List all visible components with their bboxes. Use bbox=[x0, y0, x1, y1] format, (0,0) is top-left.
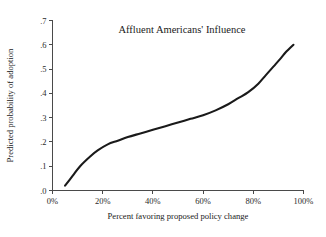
x-tick-label: 40% bbox=[145, 196, 161, 206]
y-axis-ticks bbox=[49, 21, 53, 191]
x-axis-title: Percent favoring proposed policy change bbox=[108, 211, 249, 221]
x-tick-label: 80% bbox=[246, 196, 262, 206]
x-tick-label: 20% bbox=[95, 196, 111, 206]
chart-canvas: .0.1.2.3.4.5.6.7 0%20%40%60%80%100% Affl… bbox=[0, 0, 326, 237]
data-series-line bbox=[65, 45, 293, 186]
y-tick-label: .1 bbox=[40, 161, 46, 171]
x-tick-label: 60% bbox=[195, 196, 211, 206]
y-tick-label: .2 bbox=[40, 137, 46, 147]
x-axis-ticks bbox=[53, 191, 304, 195]
x-tick-label: 0% bbox=[47, 196, 58, 206]
y-tick-label: .6 bbox=[40, 40, 46, 50]
y-axis-title: Predicted probability of adoption bbox=[5, 48, 15, 163]
y-tick-label: .3 bbox=[40, 113, 46, 123]
chart-figure: .0.1.2.3.4.5.6.7 0%20%40%60%80%100% Affl… bbox=[0, 0, 326, 237]
y-tick-label: .4 bbox=[40, 88, 47, 98]
y-axis-tick-labels: .0.1.2.3.4.5.6.7 bbox=[40, 16, 47, 196]
y-tick-label: .0 bbox=[40, 186, 46, 196]
x-tick-label: 100% bbox=[294, 196, 314, 206]
chart-title: Affluent Americans' Influence bbox=[118, 24, 245, 35]
y-tick-label: .5 bbox=[40, 64, 46, 74]
x-axis-tick-labels: 0%20%40%60%80%100% bbox=[47, 196, 314, 206]
y-tick-label: .7 bbox=[40, 16, 46, 26]
